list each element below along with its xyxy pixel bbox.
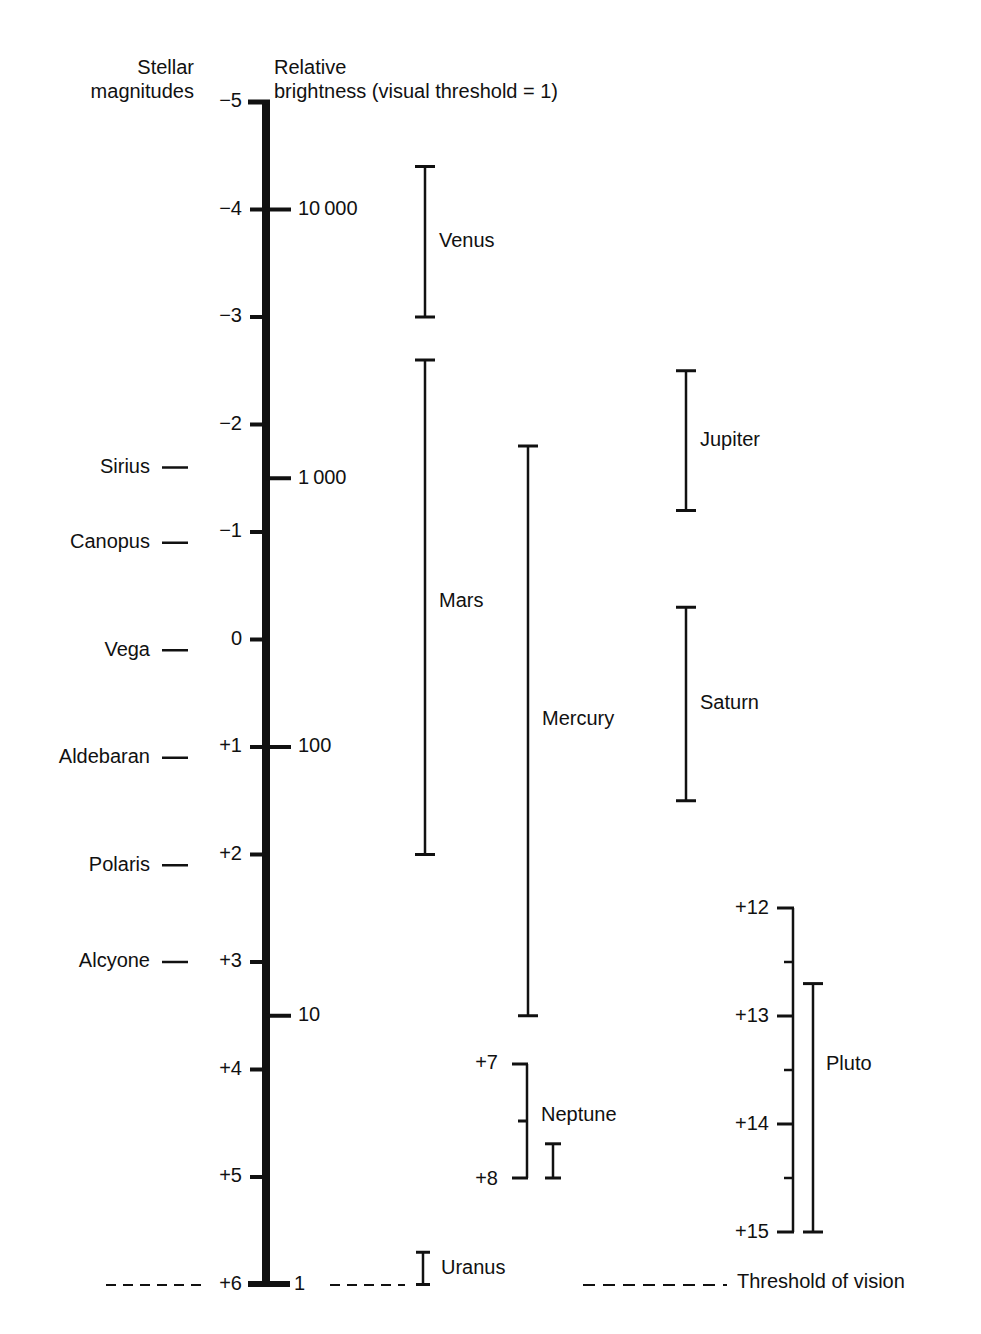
- magnitude-tick-label: 0: [231, 627, 242, 649]
- brightness-ticks: 10 0001 000100101: [266, 197, 358, 1294]
- stellar-header-line2: magnitudes: [91, 80, 194, 102]
- magnitude-tick-label: +2: [219, 842, 242, 864]
- magnitude-tick-label: +3: [219, 949, 242, 971]
- neptune-scale-label: +7: [475, 1051, 498, 1073]
- magnitude-tick-label: +1: [219, 734, 242, 756]
- magnitude-tick-label: +4: [219, 1057, 242, 1079]
- planet-label-uranus: Uranus: [441, 1256, 505, 1278]
- magnitude-ticks: −5−4−3−2−10+1+2+3+4+5+6: [219, 89, 266, 1294]
- magnitude-tick-label: +5: [219, 1164, 242, 1186]
- planet-label-mercury: Mercury: [542, 707, 614, 729]
- star-markers: SiriusCanopusVegaAldebaranPolarisAlcyone: [59, 455, 188, 972]
- planet-label-mars: Mars: [439, 589, 483, 611]
- relative-header-line2: brightness (visual threshold = 1): [274, 80, 558, 102]
- star-label-vega: Vega: [104, 638, 150, 660]
- magnitude-chart: Stellar magnitudes Relative brightness (…: [0, 0, 981, 1334]
- star-label-aldebaran: Aldebaran: [59, 745, 150, 767]
- planet-label-saturn: Saturn: [700, 691, 759, 713]
- pluto-inset: +12+13+14+15Pluto: [735, 896, 872, 1242]
- pluto-scale-label: +14: [735, 1112, 769, 1134]
- brightness-tick-label: 1 000: [298, 466, 347, 488]
- magnitude-tick-label: −3: [219, 304, 242, 326]
- neptune-scale-label: +8: [475, 1167, 498, 1189]
- neptune-label: Neptune: [541, 1103, 617, 1125]
- magnitude-tick-label: −1: [219, 519, 242, 541]
- brightness-tick-label: 10: [298, 1003, 320, 1025]
- planet-label-jupiter: Jupiter: [700, 428, 760, 450]
- brightness-tick-label: 10 000: [298, 197, 358, 219]
- brightness-tick-label: 100: [298, 734, 331, 756]
- magnitude-tick-label: −5: [219, 89, 242, 111]
- threshold-label: Threshold of vision: [737, 1270, 905, 1292]
- magnitude-tick-label: −2: [219, 412, 242, 434]
- pluto-scale-label: +15: [735, 1220, 769, 1242]
- stellar-header-line1: Stellar: [137, 56, 194, 78]
- neptune-inset: +7+8Neptune: [475, 1051, 616, 1189]
- star-label-canopus: Canopus: [70, 530, 150, 552]
- relative-header-line1: Relative: [274, 56, 346, 78]
- star-label-sirius: Sirius: [100, 455, 150, 477]
- planet-label-venus: Venus: [439, 229, 495, 251]
- magnitude-tick-label: +6: [219, 1272, 242, 1294]
- star-label-alcyone: Alcyone: [79, 949, 150, 971]
- pluto-scale-label: +13: [735, 1004, 769, 1026]
- pluto-scale-label: +12: [735, 896, 769, 918]
- brightness-tick-label: 1: [294, 1272, 305, 1294]
- star-label-polaris: Polaris: [89, 853, 150, 875]
- magnitude-tick-label: −4: [219, 197, 242, 219]
- pluto-label: Pluto: [826, 1052, 872, 1074]
